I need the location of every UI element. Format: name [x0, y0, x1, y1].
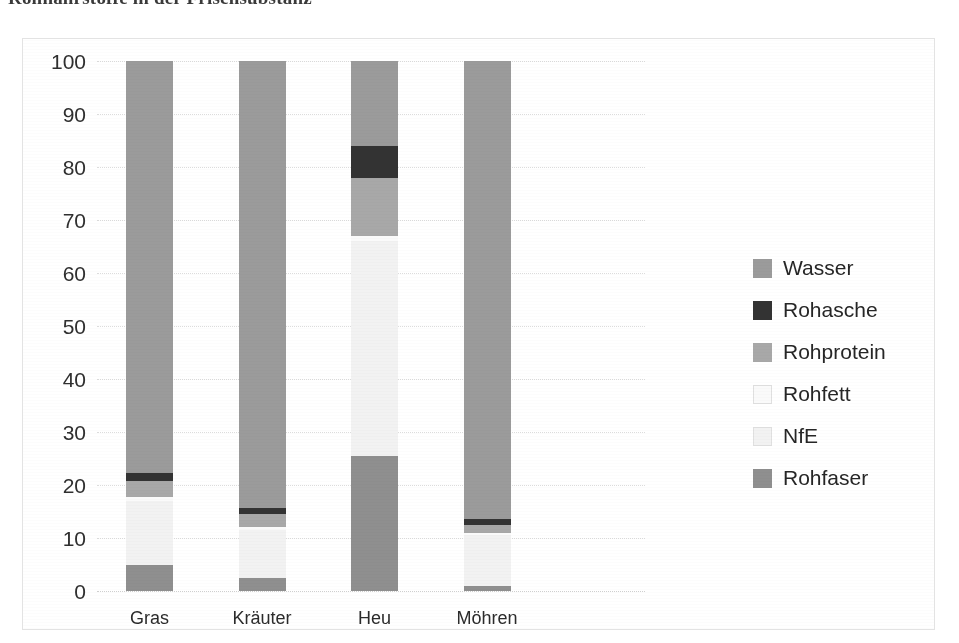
legend-swatch-icon: [753, 301, 772, 320]
y-axis-tick-label: 0: [74, 581, 86, 602]
bar-segment-rohprotein[interactable]: [351, 178, 398, 236]
bar-segment-rohasche[interactable]: [239, 508, 286, 514]
x-axis-label-gras: Gras: [130, 608, 169, 629]
x-axis-label-heu: Heu: [358, 608, 391, 629]
y-axis-tick-label: 90: [63, 104, 86, 125]
chart-legend: WasserRohascheRohproteinRohfettNfERohfas…: [753, 247, 933, 499]
legend-item-rohprotein[interactable]: Rohprotein: [753, 331, 933, 373]
legend-item-nfe[interactable]: NfE: [753, 415, 933, 457]
bar-heu[interactable]: Heu: [351, 61, 398, 591]
y-axis-tick-label: 80: [63, 157, 86, 178]
bar-segment-rohasche[interactable]: [126, 473, 173, 481]
bar-segment-nfe[interactable]: [239, 530, 286, 578]
y-axis-tick-label: 40: [63, 369, 86, 390]
bar-segment-rohfett[interactable]: [126, 497, 173, 501]
legend-swatch-icon: [753, 343, 772, 362]
bar-segment-rohprotein[interactable]: [239, 514, 286, 527]
bar-segment-rohasche[interactable]: [351, 146, 398, 178]
y-axis-tick-label: 50: [63, 316, 86, 337]
y-axis-tick-label: 60: [63, 263, 86, 284]
legend-label: Rohfett: [783, 382, 851, 406]
bar-segment-rohfett[interactable]: [464, 533, 511, 535]
legend-swatch-icon: [753, 427, 772, 446]
bar-segment-rohfaser[interactable]: [351, 456, 398, 591]
bar-segment-nfe[interactable]: [351, 241, 398, 456]
legend-swatch-icon: [753, 385, 772, 404]
legend-label: Rohfaser: [783, 466, 868, 490]
gridline: [97, 591, 645, 592]
document-heading: Rohnährstoffe in der Frischsubstanz: [8, 0, 628, 9]
bar-segment-nfe[interactable]: [464, 535, 511, 585]
plot-area: 0102030405060708090100 GrasKräuterHeuMöh…: [97, 61, 645, 591]
legend-item-wasser[interactable]: Wasser: [753, 247, 933, 289]
legend-item-rohfaser[interactable]: Rohfaser: [753, 457, 933, 499]
bar-segment-rohfaser[interactable]: [464, 586, 511, 591]
bar-segment-rohfaser[interactable]: [239, 578, 286, 591]
bar-gras[interactable]: Gras: [126, 61, 173, 591]
legend-label: Rohasche: [783, 298, 878, 322]
chart-container: 0102030405060708090100 GrasKräuterHeuMöh…: [22, 38, 935, 630]
bar-segment-rohfett[interactable]: [351, 236, 398, 241]
legend-swatch-icon: [753, 469, 772, 488]
x-axis-label-kräuter: Kräuter: [232, 608, 291, 629]
legend-label: NfE: [783, 424, 818, 448]
x-axis-label-möhren: Möhren: [456, 608, 517, 629]
bar-segment-rohasche[interactable]: [464, 519, 511, 525]
bar-segment-wasser[interactable]: [351, 61, 398, 146]
bar-segment-wasser[interactable]: [464, 61, 511, 519]
bar-segment-rohfett[interactable]: [239, 527, 286, 530]
bar-segment-wasser[interactable]: [239, 61, 286, 508]
y-axis-tick-label: 70: [63, 210, 86, 231]
bar-segment-nfe[interactable]: [126, 501, 173, 565]
bar-segment-wasser[interactable]: [126, 61, 173, 473]
legend-item-rohfett[interactable]: Rohfett: [753, 373, 933, 415]
y-axis-tick-label: 20: [63, 475, 86, 496]
y-axis-tick-label: 10: [63, 528, 86, 549]
legend-item-rohasche[interactable]: Rohasche: [753, 289, 933, 331]
bar-möhren[interactable]: Möhren: [464, 61, 511, 591]
bar-kräuter[interactable]: Kräuter: [239, 61, 286, 591]
y-axis-tick-label: 30: [63, 422, 86, 443]
bar-segment-rohprotein[interactable]: [464, 525, 511, 533]
legend-label: Wasser: [783, 256, 853, 280]
bar-segment-rohprotein[interactable]: [126, 481, 173, 497]
legend-label: Rohprotein: [783, 340, 886, 364]
bar-segment-rohfaser[interactable]: [126, 565, 173, 592]
y-axis-tick-label: 100: [51, 51, 86, 72]
legend-swatch-icon: [753, 259, 772, 278]
